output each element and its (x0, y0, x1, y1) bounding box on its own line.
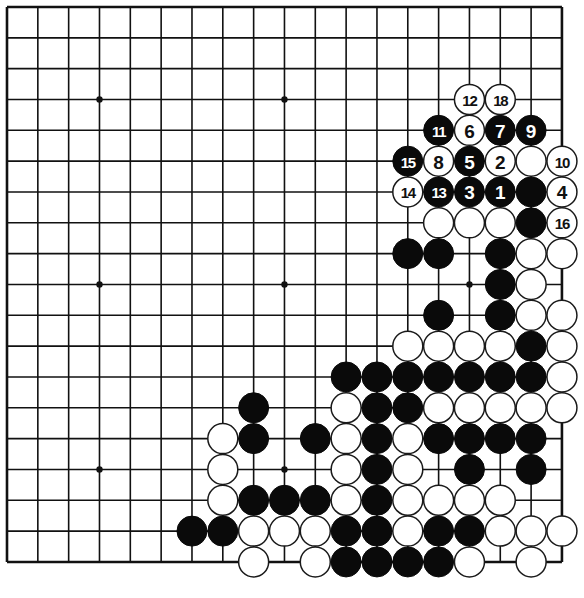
black-stone (362, 516, 392, 546)
move-number: 4 (557, 182, 568, 203)
numbered-moves-layer: 1234567891011121314151618 (393, 84, 577, 237)
white-stone (393, 485, 423, 515)
black-stone (362, 485, 392, 515)
white-stone (485, 485, 515, 515)
white-stone (331, 454, 361, 484)
black-stone (454, 424, 484, 454)
black-stone (485, 424, 515, 454)
numbered-move: 8 (424, 146, 454, 176)
black-stone (300, 485, 330, 515)
white-stone (516, 393, 546, 423)
white-stone (547, 393, 577, 423)
numbered-move: 4 (547, 177, 577, 207)
black-stone (331, 547, 361, 577)
white-stone (331, 393, 361, 423)
white-stone (516, 239, 546, 269)
black-stone (516, 454, 546, 484)
numbered-move: 2 (485, 146, 515, 176)
white-stone (547, 239, 577, 269)
numbered-move: 3 (454, 177, 484, 207)
move-number: 14 (401, 184, 417, 201)
numbered-move: 1 (485, 177, 515, 207)
black-stone (485, 239, 515, 269)
black-stone (362, 424, 392, 454)
black-stone (393, 393, 423, 423)
star-point (281, 96, 287, 102)
go-board-diagram: 1234567891011121314151618 (0, 0, 584, 598)
white-stone (454, 547, 484, 577)
black-stone (454, 362, 484, 392)
white-stone (516, 300, 546, 330)
star-point (281, 281, 287, 287)
white-stone (516, 547, 546, 577)
star-point (96, 96, 102, 102)
white-stone (300, 516, 330, 546)
white-stone (393, 331, 423, 361)
white-stone (424, 485, 454, 515)
black-stone (454, 454, 484, 484)
white-stone (547, 516, 577, 546)
black-stone (485, 362, 515, 392)
white-stone (516, 146, 546, 176)
black-stone (454, 516, 484, 546)
move-number: 9 (526, 121, 537, 142)
white-stone (485, 331, 515, 361)
numbered-move: 14 (393, 177, 423, 207)
move-number: 7 (495, 121, 506, 142)
black-stone (239, 393, 269, 423)
black-stone (424, 239, 454, 269)
black-stone (362, 454, 392, 484)
numbered-move: 11 (424, 115, 454, 145)
white-stone (485, 208, 515, 238)
white-stone (454, 208, 484, 238)
black-stone (239, 485, 269, 515)
black-stone (516, 362, 546, 392)
numbered-move: 13 (424, 177, 454, 207)
white-stone (208, 454, 238, 484)
black-stone (516, 208, 546, 238)
move-number: 16 (555, 215, 570, 232)
move-number: 8 (433, 152, 444, 173)
go-board[interactable]: 1234567891011121314151618 (0, 0, 584, 598)
black-stone (177, 516, 207, 546)
numbered-move: 5 (454, 146, 484, 176)
white-stone (239, 547, 269, 577)
white-stone (424, 331, 454, 361)
numbered-move: 16 (547, 208, 577, 238)
white-stone (393, 424, 423, 454)
numbered-move: 9 (516, 115, 546, 145)
white-stone (331, 424, 361, 454)
black-stone (516, 331, 546, 361)
white-stone (454, 331, 484, 361)
black-stone (485, 269, 515, 299)
move-number: 12 (462, 92, 477, 109)
black-stone (485, 300, 515, 330)
black-stone (331, 362, 361, 392)
black-stone (362, 547, 392, 577)
numbered-move: 10 (547, 146, 577, 176)
black-stone (208, 516, 238, 546)
white-stone (454, 393, 484, 423)
move-number: 5 (464, 152, 475, 173)
star-point (466, 281, 472, 287)
white-stone (547, 362, 577, 392)
white-stone (485, 393, 515, 423)
move-number: 18 (493, 92, 508, 109)
white-stone (331, 485, 361, 515)
star-point (281, 466, 287, 472)
white-stone (208, 424, 238, 454)
black-stone (424, 300, 454, 330)
move-number: 6 (464, 121, 475, 142)
numbered-move: 15 (393, 146, 423, 176)
move-number: 15 (401, 154, 416, 171)
move-number: 1 (495, 182, 506, 203)
black-stone (269, 485, 299, 515)
white-stone (393, 454, 423, 484)
black-stone (424, 424, 454, 454)
black-stone (424, 547, 454, 577)
star-point (96, 281, 102, 287)
black-stone (239, 424, 269, 454)
black-stone (362, 362, 392, 392)
numbered-move: 12 (454, 84, 484, 114)
black-stone (393, 547, 423, 577)
